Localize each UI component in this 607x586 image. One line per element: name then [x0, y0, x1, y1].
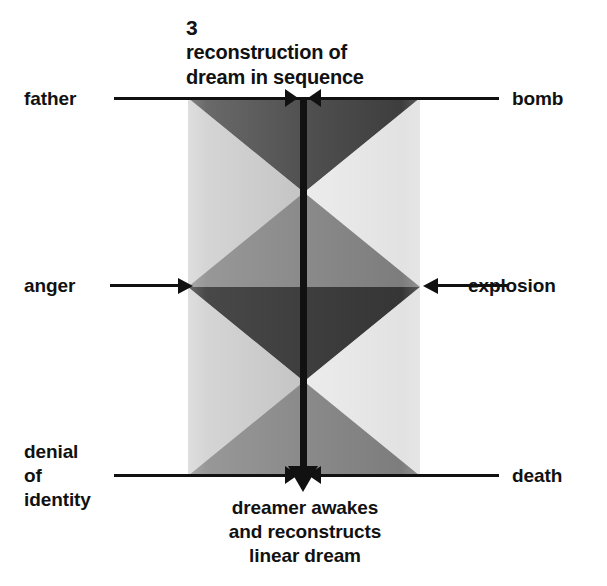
figure-title-line-2: dream in sequence [186, 65, 486, 90]
figure-caption: dreamer awakes and reconstructs linear d… [160, 496, 450, 568]
caption-line-1: dreamer awakes [160, 496, 450, 520]
figure-number: 3 [186, 16, 486, 40]
axis-label-explosion: explosion [468, 274, 556, 297]
vertical-time-arrow-shaft [300, 98, 307, 478]
axis-label-bomb: bomb [512, 87, 563, 110]
arrowhead-anger [178, 278, 193, 294]
axis-label-anger: anger [24, 274, 75, 297]
spine-top-left-arrowhead [285, 89, 298, 107]
axis-label-father: father [24, 87, 76, 110]
axis-label-denial-line-1: denial [24, 440, 78, 464]
figure-title-line-1: reconstruction of [186, 40, 486, 65]
figure-header: 3 reconstruction of dream in sequence [186, 16, 486, 90]
caption-line-2: and reconstructs [160, 520, 450, 544]
vertical-time-arrowhead [288, 466, 318, 492]
leader-line-anger [110, 284, 180, 287]
arrowhead-explosion [423, 278, 438, 294]
spine-top-right-arrowhead [308, 89, 321, 107]
diagram-canvas: 3 reconstruction of dream in sequence fa… [0, 0, 607, 586]
caption-line-3: linear dream [160, 544, 450, 568]
axis-label-denial-line-3: identity [24, 488, 91, 512]
axis-label-death: death [512, 464, 562, 487]
axis-label-denial-line-2: of [24, 464, 42, 488]
